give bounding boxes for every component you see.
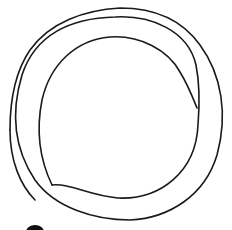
loop-drawing: [0, 0, 232, 230]
dark-blob: [26, 225, 44, 230]
inner-loop-path: [39, 37, 197, 185]
outer-ring-tail: [10, 130, 35, 200]
outer-loop-path: [10, 8, 222, 220]
